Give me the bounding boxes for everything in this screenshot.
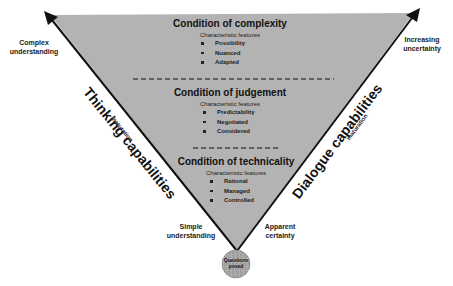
feature-label: Rational <box>224 178 248 184</box>
feature-list: Possibility Nuanced Adapted <box>201 39 310 68</box>
label-simple-understanding: Simple understanding <box>163 222 219 240</box>
feature-item: Rational <box>210 177 316 187</box>
feature-list: Rational Managed Controlled <box>210 177 316 206</box>
condition-title: Condition of technicality <box>156 156 316 167</box>
feature-item: Controlled <box>210 196 316 206</box>
bullet-icon <box>203 111 206 114</box>
feature-item: Negotiated <box>203 118 310 128</box>
condition-title: Condition of judgement <box>150 87 310 98</box>
feature-item: Adapted <box>201 58 310 68</box>
label-line: Increasing <box>396 35 448 44</box>
feature-item: Possibility <box>201 39 310 49</box>
questions-posed-label: Questions posed <box>218 257 254 269</box>
feature-label: Negotiated <box>217 119 248 125</box>
feature-item: Nuanced <box>201 49 310 59</box>
bullet-icon <box>210 180 213 183</box>
feature-label: Adapted <box>215 59 239 65</box>
label-line: Simple <box>163 222 219 231</box>
feature-item: Predictability <box>203 108 310 118</box>
condition-complexity: Condition of complexity Characteristic f… <box>150 18 310 68</box>
feature-list: Predictability Negotiated Considered <box>203 108 310 137</box>
feature-item: Managed <box>210 187 316 197</box>
condition-judgement: Condition of judgement Characteristic fe… <box>150 87 310 137</box>
feature-label: Controlled <box>224 197 254 203</box>
label-line: certainty <box>256 231 304 240</box>
label-line: Apparent <box>256 222 304 231</box>
condition-technicality: Condition of technicality Characteristic… <box>156 156 316 206</box>
label-line: Complex <box>8 38 60 47</box>
label-line: understanding <box>8 47 60 56</box>
bullet-icon <box>201 61 204 64</box>
feature-label: Managed <box>224 188 250 194</box>
label-line: understanding <box>163 231 219 240</box>
feature-item: Considered <box>203 127 310 137</box>
label-complex-understanding: Complex understanding <box>8 38 60 56</box>
feature-label: Possibility <box>215 40 245 46</box>
condition-title: Condition of complexity <box>150 18 310 29</box>
bullet-icon <box>210 199 213 202</box>
condition-subtitle: Characteristic features <box>150 32 310 38</box>
condition-subtitle: Characteristic features <box>156 170 316 176</box>
condition-subtitle: Characteristic features <box>150 101 310 107</box>
feature-label: Considered <box>217 128 250 134</box>
bullet-icon <box>201 52 204 55</box>
circle-label-line: posed <box>218 263 254 269</box>
feature-label: Predictability <box>217 109 255 115</box>
label-apparent-certainty: Apparent certainty <box>256 222 304 240</box>
bullet-icon <box>203 121 206 124</box>
bullet-icon <box>201 42 204 45</box>
bullet-icon <box>210 190 213 193</box>
bullet-icon <box>203 130 206 133</box>
left-arrowhead-icon <box>44 11 58 25</box>
feature-label: Nuanced <box>215 50 240 56</box>
label-increasing-uncertainty: Increasing uncertainty <box>396 35 448 53</box>
label-line: uncertainty <box>396 44 448 53</box>
